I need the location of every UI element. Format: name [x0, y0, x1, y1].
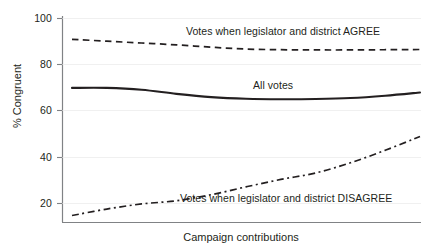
- chart-figure: 100 80 60 40 20 % Congruent Campaign con…: [0, 0, 438, 249]
- x-axis-title: Campaign contributions: [62, 231, 420, 243]
- y-tick-label-80: 80: [22, 58, 52, 70]
- gridlines: [63, 19, 422, 204]
- y-axis-ticks: [57, 19, 63, 204]
- chart-plot-area: [0, 0, 438, 249]
- annotation-agree: Votes when legislator and district AGREE: [186, 25, 380, 37]
- y-axis-title: % Congruent: [11, 46, 23, 146]
- y-tick-label-60: 60: [22, 104, 52, 116]
- y-tick-label-40: 40: [22, 151, 52, 163]
- series-line-agree: [72, 39, 420, 50]
- annotation-disagree: Votes when legislator and district DISAG…: [180, 192, 392, 204]
- y-tick-label-20: 20: [22, 197, 52, 209]
- series-line-all-votes: [72, 88, 420, 99]
- y-tick-label-100: 100: [22, 12, 52, 24]
- annotation-all-votes: All votes: [253, 79, 293, 91]
